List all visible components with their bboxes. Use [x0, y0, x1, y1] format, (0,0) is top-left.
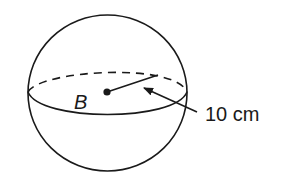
sphere-diagram: B 10 cm — [0, 0, 286, 177]
radius-label: 10 cm — [205, 103, 259, 125]
pointer-arrow-icon — [144, 88, 197, 112]
radius-line — [107, 75, 158, 92]
center-label: B — [74, 91, 87, 113]
